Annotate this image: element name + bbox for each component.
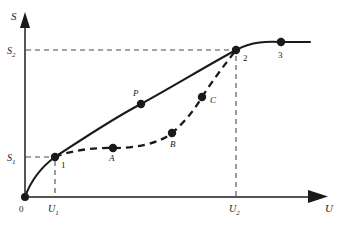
data-point-b — [168, 129, 176, 137]
point-label-b: B — [170, 139, 176, 149]
figure-canvas: S U 0 S1 S2 U1 U2 1 2 3 — [0, 0, 338, 225]
x-tick-label-u2: U2 — [229, 203, 240, 217]
point-label-c: C — [210, 95, 217, 105]
data-point-3 — [277, 38, 285, 46]
data-point-a — [109, 144, 117, 152]
x-tick-label-u1: U1 — [48, 203, 59, 217]
svg-text:U1: U1 — [48, 203, 59, 217]
equilibrium-curve — [25, 42, 310, 197]
point-label-1: 1 — [61, 160, 66, 170]
guide-lines-group — [26, 50, 236, 196]
y-axis-arrowhead — [20, 12, 30, 28]
y-axis-label: S — [11, 10, 17, 22]
y-tick-label-s2: S2 — [7, 45, 16, 59]
point-label-2: 2 — [243, 53, 248, 63]
su-diagram: S U 0 S1 S2 U1 U2 1 2 3 — [0, 0, 338, 225]
data-point-origin — [21, 193, 29, 201]
point-label-a: A — [108, 153, 115, 163]
data-point-c — [198, 93, 206, 101]
point-label-3: 3 — [278, 50, 283, 60]
x-axis-label: U — [325, 202, 334, 214]
y-tick-label-s1: S1 — [7, 152, 16, 166]
data-point-2 — [232, 46, 240, 54]
data-point-p — [137, 100, 145, 108]
origin-label: 0 — [19, 204, 24, 214]
svg-text:S2: S2 — [7, 45, 16, 59]
svg-text:S1: S1 — [7, 152, 16, 166]
y-tick-s1-subscript: 1 — [12, 158, 16, 166]
y-tick-s2-subscript: 2 — [12, 51, 16, 59]
svg-text:U2: U2 — [229, 203, 240, 217]
x-tick-u1-subscript: 1 — [55, 209, 59, 217]
x-tick-u2-subscript: 2 — [236, 209, 240, 217]
point-label-p: P — [132, 88, 139, 98]
data-point-1 — [51, 153, 59, 161]
